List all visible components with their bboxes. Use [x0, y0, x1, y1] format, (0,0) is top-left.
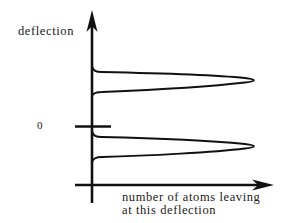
lower-peak-curve [92, 131, 254, 162]
x-axis-label-line1: number of atoms leaving [122, 190, 261, 204]
x-axis-label-line2: at this deflection [122, 203, 216, 217]
y-axis-label: deflection [18, 24, 74, 38]
deflection-diagram: deflection 0 number of atoms leaving at … [0, 0, 299, 223]
upper-peak-curve [92, 66, 254, 96]
zero-label: 0 [37, 119, 43, 131]
